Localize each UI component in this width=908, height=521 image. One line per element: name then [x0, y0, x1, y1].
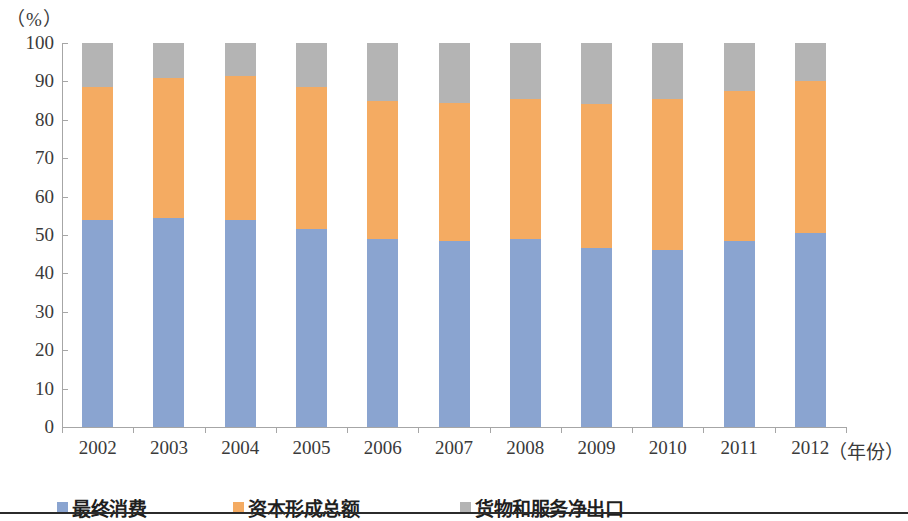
bar-segment — [153, 78, 184, 218]
y-axis-tick-label: 10 — [8, 378, 54, 400]
footer-divider — [0, 512, 908, 514]
legend-item[interactable]: 货物和服务净出口 — [460, 494, 623, 521]
x-axis-tick — [62, 427, 63, 433]
bar-segment — [724, 241, 755, 427]
legend-label: 最终消费 — [72, 494, 146, 521]
bar-segment — [296, 229, 327, 427]
bar-segment — [581, 43, 612, 104]
bar-segment — [510, 43, 541, 99]
x-axis-tick — [561, 427, 562, 433]
plot-area — [62, 43, 846, 427]
legend-label: 资本形成总额 — [248, 494, 359, 521]
x-axis-tick-label: 2002 — [63, 437, 133, 459]
bar-segment — [225, 220, 256, 427]
bar-segment — [724, 91, 755, 241]
bar-segment — [652, 250, 683, 427]
x-axis-tick-label: 2006 — [348, 437, 418, 459]
bar-segment — [367, 43, 398, 101]
bar-segment — [439, 103, 470, 241]
bar-segment — [82, 220, 113, 427]
bar-segment — [795, 233, 826, 427]
x-axis-tick-label: 2003 — [134, 437, 204, 459]
y-axis-tick-label: 70 — [8, 147, 54, 169]
bar-segment — [82, 87, 113, 219]
y-axis-tick-label: 90 — [8, 70, 54, 92]
y-axis-unit-label: （%） — [6, 4, 63, 31]
bar-stack — [225, 43, 256, 427]
y-axis-tick-label: 30 — [8, 301, 54, 323]
x-axis-tick — [347, 427, 348, 433]
x-axis-title: （年份） — [828, 437, 904, 464]
bar-stack — [724, 43, 755, 427]
bar-segment — [367, 101, 398, 239]
y-axis-tick-label: 80 — [8, 109, 54, 131]
bar-stack — [82, 43, 113, 427]
bar-segment — [153, 43, 184, 78]
bar-segment — [510, 99, 541, 239]
bar-segment — [439, 43, 470, 103]
bar-segment — [795, 43, 826, 81]
x-axis-line — [62, 427, 846, 428]
legend-label: 货物和服务净出口 — [475, 494, 623, 521]
bar-segment — [153, 218, 184, 427]
x-axis-tick-label: 2010 — [633, 437, 703, 459]
bar-segment — [652, 99, 683, 251]
x-axis-tick — [846, 427, 847, 433]
y-axis-tick-label: 50 — [8, 224, 54, 246]
bar-stack — [367, 43, 398, 427]
x-axis-tick-label: 2007 — [419, 437, 489, 459]
x-axis-tick — [418, 427, 419, 433]
bar-segment — [296, 87, 327, 229]
legend-item[interactable]: 最终消费 — [57, 494, 146, 521]
bar-segment — [225, 43, 256, 76]
bar-segment — [225, 76, 256, 220]
bar-segment — [581, 104, 612, 248]
bar-stack — [439, 43, 470, 427]
bar-segment — [795, 81, 826, 233]
bar-stack — [153, 43, 184, 427]
y-axis-tick-label: 0 — [8, 416, 54, 438]
bar-segment — [652, 43, 683, 99]
x-axis-tick — [205, 427, 206, 433]
bar-stack — [795, 43, 826, 427]
x-axis-tick-label: 2005 — [276, 437, 346, 459]
bar-stack — [581, 43, 612, 427]
bar-segment — [367, 239, 398, 427]
bar-segment — [296, 43, 327, 87]
legend-item[interactable]: 资本形成总额 — [233, 494, 359, 521]
bar-segment — [581, 248, 612, 427]
y-axis-tick-label: 20 — [8, 339, 54, 361]
x-axis-tick — [276, 427, 277, 433]
x-axis-tick-label: 2011 — [704, 437, 774, 459]
x-axis-tick-label: 2004 — [205, 437, 275, 459]
bar-segment — [724, 43, 755, 91]
x-axis-tick-label: 2008 — [490, 437, 560, 459]
x-axis-tick — [133, 427, 134, 433]
y-axis-tick-label: 40 — [8, 262, 54, 284]
bar-segment — [510, 239, 541, 427]
bar-stack — [510, 43, 541, 427]
x-axis-tick — [703, 427, 704, 433]
x-axis-tick-label: 2009 — [562, 437, 632, 459]
y-axis-tick-label: 60 — [8, 186, 54, 208]
bar-segment — [82, 43, 113, 87]
bar-stack — [296, 43, 327, 427]
x-axis-tick — [490, 427, 491, 433]
y-axis-tick-label: 100 — [8, 32, 54, 54]
x-axis-tick — [632, 427, 633, 433]
chart-legend: 最终消费资本形成总额货物和服务净出口 — [0, 484, 908, 515]
bar-stack — [652, 43, 683, 427]
x-axis-tick — [775, 427, 776, 433]
bar-segment — [439, 241, 470, 427]
